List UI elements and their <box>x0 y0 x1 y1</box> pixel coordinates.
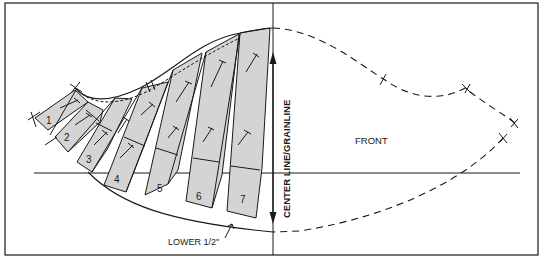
arrow-up-icon <box>270 52 277 64</box>
section-label-1: 1 <box>46 115 52 126</box>
section-label-7: 7 <box>240 194 246 205</box>
front-label: FRONT <box>355 135 388 146</box>
center-grainline-label: CENTER LINE/GRAINLINE <box>281 100 292 218</box>
pattern-diagram: 1 2 3 4 5 6 7 FRONT CENTER LINE/GRAINLIN… <box>0 0 545 263</box>
front-notch-marks <box>380 74 518 143</box>
lower-note-label: LOWER 1/2" <box>168 237 219 247</box>
front-lower-dashed-outline <box>273 138 503 232</box>
section-label-2: 2 <box>64 132 70 143</box>
front-upper-dashed-outline <box>273 28 515 123</box>
section-label-3: 3 <box>86 154 92 165</box>
section-label-6: 6 <box>196 191 202 202</box>
arrow-down-icon <box>270 212 277 224</box>
section-label-4: 4 <box>114 174 120 185</box>
section-label-5: 5 <box>157 183 163 194</box>
